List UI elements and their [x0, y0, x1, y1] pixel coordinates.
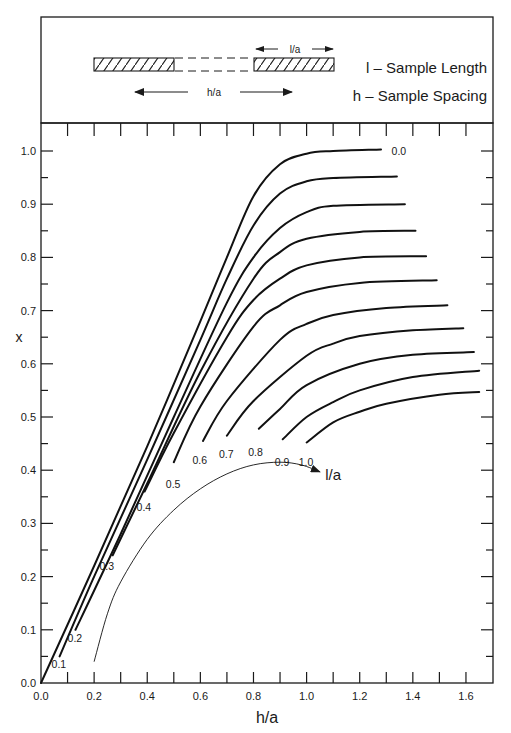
x-tick-label: 0.8: [246, 690, 261, 702]
curve-label: 0.4: [137, 501, 152, 513]
curve-label: 0.0: [392, 145, 407, 157]
y-axis-title: x: [16, 329, 23, 345]
x-tick-label: 0.6: [193, 690, 208, 702]
curve-l-a-0.3: [113, 231, 416, 556]
x-tick-label: 1.4: [405, 690, 420, 702]
y-tick-label: 0.3: [21, 517, 36, 529]
y-tick-label: 0.4: [21, 464, 36, 476]
sample-bar-left: [94, 58, 174, 71]
curve-l-a-0.8: [259, 352, 474, 429]
x-tick-label: 0.4: [140, 690, 155, 702]
data-curves: [41, 149, 479, 683]
y-tick-label: 0.6: [21, 358, 36, 370]
l-a-arrow-label: l/a: [325, 466, 342, 483]
curve-label: 0.5: [166, 478, 181, 490]
y-tick-label: 1.0: [21, 145, 36, 157]
x-tick-label: 0.0: [33, 690, 48, 702]
legend-line-sample-spacing: h – Sample Spacing: [353, 87, 487, 104]
legend-line-sample-length: l – Sample Length: [366, 59, 487, 76]
x-tick-label: 1.6: [458, 690, 473, 702]
legend-panel: l/a h/a l – Sample Length h – Sample Spa…: [41, 17, 493, 123]
y-tick-label: 0.2: [21, 571, 36, 583]
y-tick-label: 0.7: [21, 305, 36, 317]
annotations: l/a: [94, 462, 342, 662]
y-tick-label: 0.5: [21, 411, 36, 423]
l-a-direction-arrow-icon: [94, 462, 320, 662]
curve-label: 0.2: [68, 632, 83, 644]
x-tick-label: 1.2: [352, 690, 367, 702]
curve-labels: 0.00.10.20.30.40.50.60.70.80.91.0: [52, 145, 407, 670]
curve-label: 0.7: [219, 448, 234, 460]
curve-l-a-0.6: [203, 305, 447, 441]
x-tick-label: 1.0: [299, 690, 314, 702]
curve-l-a-0.0: [41, 149, 381, 683]
curve-label: 0.1: [52, 658, 67, 670]
sample-spacing-label: h/a: [207, 87, 221, 98]
x-tick-label: 0.2: [86, 690, 101, 702]
curve-label: 0.8: [248, 446, 263, 458]
sample-bar-right: [254, 58, 334, 71]
chart-figure: l/a h/a l – Sample Length h – Sample Spa…: [0, 0, 511, 733]
y-tick-label: 0.9: [21, 198, 36, 210]
y-tick-label: 0.0: [21, 677, 36, 689]
curve-l-a-0.7: [227, 328, 463, 435]
curve-label: 0.6: [192, 454, 207, 466]
x-axis-title: h/a: [256, 709, 278, 726]
y-tick-label: 0.1: [21, 624, 36, 636]
curve-label: 0.3: [99, 560, 114, 572]
axis-tick-labels: 0.00.20.40.60.81.01.21.41.60.00.10.20.30…: [21, 145, 474, 702]
curve-l-a-1.0: [307, 392, 480, 443]
segment-length-label: l/a: [290, 44, 301, 55]
y-tick-label: 0.8: [21, 251, 36, 263]
